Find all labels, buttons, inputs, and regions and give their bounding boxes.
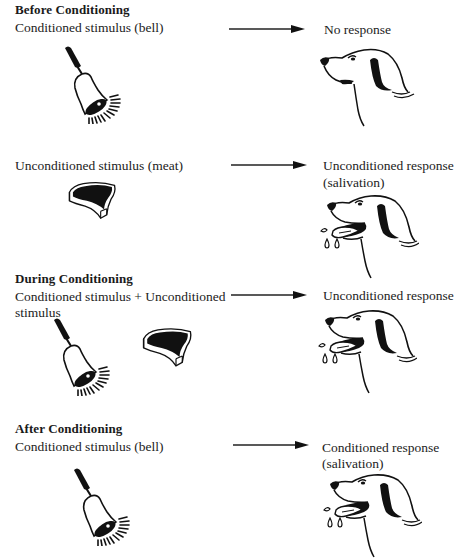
stimulus-label-meat: Unconditioned stimulus (meat) [15, 158, 183, 174]
dog-head-salivating-icon [318, 474, 422, 558]
response-label-none: No response [324, 22, 391, 38]
stimulus-label-combined: Conditioned stimulus + Unconditioned [15, 289, 225, 305]
stimulus-label-bell: Conditioned stimulus (bell) [15, 20, 164, 36]
bell-icon [64, 466, 134, 546]
section-heading-during-conditioning: During Conditioning [15, 271, 133, 287]
meat-icon [66, 180, 118, 220]
arrow-icon [229, 24, 305, 34]
arrow-icon [231, 160, 307, 170]
section-heading-after-conditioning: After Conditioning [15, 421, 122, 437]
bell-icon [44, 316, 114, 396]
bell-icon [55, 44, 125, 124]
response-label-unconditioned: Unconditioned response [323, 288, 454, 304]
response-label-salivation: (salivation) [322, 456, 383, 472]
arrow-icon [233, 440, 309, 450]
stimulus-label-bell: Conditioned stimulus (bell) [15, 439, 164, 455]
response-label-conditioned: Conditioned response [322, 440, 439, 456]
dog-head-salivating-icon [313, 310, 417, 394]
arrow-icon [231, 290, 307, 300]
response-label-salivation: (salivation) [323, 175, 384, 191]
meat-icon [140, 326, 194, 368]
dog-head-neutral-icon [318, 48, 418, 128]
section-heading-before-conditioning: Before Conditioning [15, 2, 130, 18]
dog-head-salivating-icon [315, 195, 419, 279]
response-label-unconditioned: Unconditioned response [323, 158, 454, 174]
